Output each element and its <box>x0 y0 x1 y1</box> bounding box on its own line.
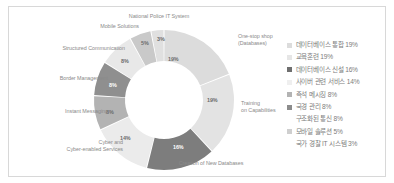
slice-value-border-management: 8% <box>109 82 117 88</box>
legend-item[interactable]: 데이터베이스 신설 16% <box>287 65 394 77</box>
category-label-cyber-line2: Cyber-enabled Services <box>19 146 123 153</box>
legend-item[interactable]: 즉석 메시징 8% <box>287 90 394 102</box>
legend-item[interactable]: 데이터베이스 통합 19% <box>287 40 394 52</box>
legend-item-label: 국경 관리 8% <box>296 102 332 112</box>
legend-swatch <box>287 92 292 97</box>
legend-item-label: 데이터베이스 신설 16% <box>296 65 358 75</box>
category-label-cyber: Cyber and Cyber-enabled Services <box>19 139 123 153</box>
screenshot-root: 19% 19% 16% 14% 8% 8% 8% 5% 3% National … <box>0 0 394 183</box>
legend-item[interactable]: 모바일 솔루션 5% <box>287 127 394 139</box>
donut-chart-area: 19% 19% 16% 14% 8% 8% 8% 5% 3% National … <box>31 13 281 178</box>
legend-item[interactable]: 국가 경찰 IT 시스템 3% <box>287 139 394 151</box>
legend-swatch <box>287 142 292 147</box>
category-label-border-management: Border Management <box>13 75 108 82</box>
legend-item[interactable]: 사이버 관련 서비스 14% <box>287 77 394 89</box>
chart-legend: 데이터베이스 통합 19%교육훈련 19%데이터베이스 신설 16%사이버 관련… <box>287 40 394 152</box>
legend-item-label: 구조화된 통신 8% <box>296 114 343 124</box>
legend-item-label: 즉석 메시징 8% <box>296 90 337 100</box>
chart-panel: 19% 19% 16% 14% 8% 8% 8% 5% 3% National … <box>8 6 386 177</box>
category-label-instant-messaging: Instant Messaging <box>13 108 108 115</box>
legend-item-label: 교육훈련 19% <box>296 52 333 62</box>
legend-swatch <box>287 80 292 85</box>
legend-swatch <box>287 67 292 72</box>
legend-swatch <box>287 43 292 48</box>
legend-item-label: 사이버 관련 서비스 14% <box>296 77 360 87</box>
legend-swatch <box>287 105 292 110</box>
slice-value-mobile-solutions: 5% <box>141 40 149 46</box>
category-label-cyber-line1: Cyber and <box>19 139 123 146</box>
legend-item[interactable]: 국경 관리 8% <box>287 102 394 114</box>
category-label-national-police: National Police IT System <box>104 13 214 20</box>
slice-value-creation: 16% <box>173 144 184 150</box>
legend-item-label: 모바일 솔루션 5% <box>296 127 343 137</box>
slice-value-national-police: 3% <box>157 36 165 42</box>
slice-value-structured-communication: 8% <box>121 58 129 64</box>
slice-value-one-stop-shop: 19% <box>168 56 179 62</box>
legend-item[interactable]: 교육훈련 19% <box>287 52 394 64</box>
legend-swatch <box>287 129 292 134</box>
legend-item[interactable]: 구조화된 통신 8% <box>287 114 394 126</box>
slice-value-training: 19% <box>207 97 218 103</box>
category-label-structured-communication: Structured Communication <box>11 45 125 52</box>
category-label-creation: Creation of New Databases <box>151 160 271 167</box>
legend-item-label: 데이터베이스 통합 19% <box>296 40 358 50</box>
legend-swatch <box>287 55 292 60</box>
legend-swatch <box>287 117 292 122</box>
category-label-mobile-solutions: Mobile Solutions <box>31 23 139 30</box>
legend-item-label: 국가 경찰 IT 시스템 3% <box>296 139 358 149</box>
